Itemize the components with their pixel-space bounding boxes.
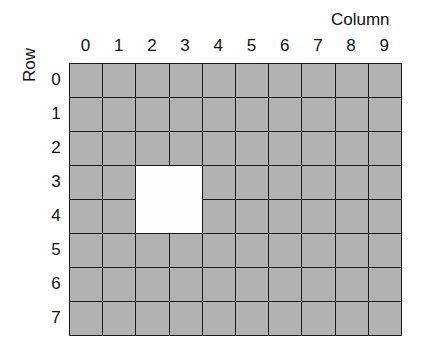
grid-cell	[235, 131, 269, 166]
grid-cell	[335, 267, 369, 302]
grid-cell	[301, 63, 335, 98]
grid-cell	[268, 131, 302, 166]
grid-cell	[268, 199, 302, 234]
column-label: 0	[69, 36, 102, 56]
row-label: 4	[48, 206, 64, 226]
column-label: 3	[169, 36, 202, 56]
row-label: 5	[48, 240, 64, 260]
grid-cell	[268, 165, 302, 200]
grid-cell	[69, 301, 103, 336]
grid-cell	[235, 97, 269, 132]
column-label: 9	[368, 36, 401, 56]
grid-cell	[335, 301, 369, 336]
grid-cell	[335, 63, 369, 98]
grid-cell	[102, 131, 136, 166]
grid-cell	[268, 301, 302, 336]
grid-cell	[268, 233, 302, 268]
column-label: 1	[102, 36, 135, 56]
grid-cell	[102, 301, 136, 336]
grid-cell	[368, 233, 402, 268]
grid	[69, 63, 401, 335]
grid-cell	[301, 233, 335, 268]
grid-cell	[69, 233, 103, 268]
grid-cell	[69, 267, 103, 302]
grid-cell	[335, 165, 369, 200]
grid-cell	[169, 267, 203, 302]
grid-cell	[202, 165, 236, 200]
column-label: 5	[235, 36, 268, 56]
grid-cell	[69, 199, 103, 234]
grid-cell	[235, 199, 269, 234]
row-label: 3	[48, 172, 64, 192]
grid-cell	[202, 199, 236, 234]
grid-cell	[102, 63, 136, 98]
column-label: 2	[135, 36, 168, 56]
column-axis-title: Column	[331, 10, 390, 30]
grid-cell	[135, 63, 169, 98]
grid-cell	[268, 267, 302, 302]
grid-cell	[235, 165, 269, 200]
grid-cell	[368, 165, 402, 200]
grid-cell	[301, 301, 335, 336]
grid-cell	[235, 267, 269, 302]
grid-cell	[368, 267, 402, 302]
grid-cell	[301, 131, 335, 166]
empty-region	[135, 165, 202, 234]
grid-cell	[335, 199, 369, 234]
grid-cell	[368, 199, 402, 234]
grid-cell	[135, 233, 169, 268]
grid-cell	[301, 97, 335, 132]
row-label: 0	[48, 70, 64, 90]
column-label: 7	[301, 36, 334, 56]
grid-cell	[335, 97, 369, 132]
grid-cell	[235, 233, 269, 268]
grid-cell	[135, 97, 169, 132]
column-label: 6	[268, 36, 301, 56]
grid-cell	[268, 63, 302, 98]
column-label: 4	[202, 36, 235, 56]
grid-cell	[368, 97, 402, 132]
row-label: 6	[48, 274, 64, 294]
grid-cell	[169, 233, 203, 268]
grid-cell	[268, 97, 302, 132]
grid-cell	[368, 63, 402, 98]
grid-cell	[169, 97, 203, 132]
grid-cell	[301, 267, 335, 302]
grid-cell	[69, 165, 103, 200]
row-label: 1	[48, 104, 64, 124]
grid-cell	[335, 233, 369, 268]
grid-cell	[69, 97, 103, 132]
grid-cell	[169, 131, 203, 166]
grid-cell	[235, 63, 269, 98]
grid-cell	[202, 267, 236, 302]
grid-cell	[335, 131, 369, 166]
grid-cell	[235, 301, 269, 336]
grid-cell	[102, 233, 136, 268]
grid-cell	[102, 97, 136, 132]
grid-cell	[102, 267, 136, 302]
row-label: 7	[48, 308, 64, 328]
grid-cell	[368, 131, 402, 166]
grid-cell	[135, 301, 169, 336]
grid-cell	[102, 165, 136, 200]
grid-cell	[202, 63, 236, 98]
grid-cell	[169, 301, 203, 336]
grid-cell	[69, 131, 103, 166]
grid-cell	[202, 233, 236, 268]
grid-cell	[301, 165, 335, 200]
grid-cell	[69, 63, 103, 98]
grid-cell	[202, 301, 236, 336]
grid-cell	[102, 199, 136, 234]
grid-cell	[135, 131, 169, 166]
grid-cell	[368, 301, 402, 336]
row-axis-title: Row	[20, 42, 40, 82]
grid-cell	[169, 63, 203, 98]
column-label: 8	[335, 36, 368, 56]
grid-cell	[301, 199, 335, 234]
row-label: 2	[48, 138, 64, 158]
grid-cell	[202, 97, 236, 132]
grid-cell	[135, 267, 169, 302]
grid-cell	[202, 131, 236, 166]
